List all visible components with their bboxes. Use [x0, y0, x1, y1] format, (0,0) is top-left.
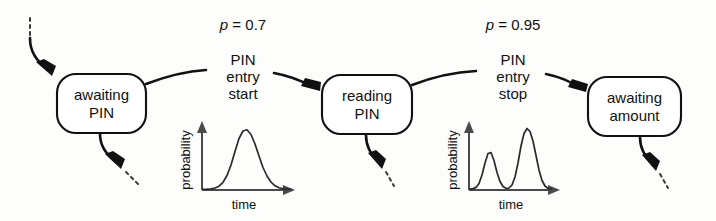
transition-event-label-2-line3: stop [499, 85, 527, 102]
inset-chart-timing-distribution-bimodal: probability time [445, 121, 560, 212]
state-label-awaiting-pin-line1: awaiting [74, 86, 129, 103]
state-label-awaiting-pin-line2: PIN [89, 104, 114, 121]
state-node-awaiting-amount[interactable]: awaiting amount [588, 77, 681, 136]
entry-into-awaiting-pin-arrow [30, 18, 56, 76]
state-label-awaiting-amount-line2: amount [609, 107, 660, 124]
transition-pin-entry-stop: p = 0.95 PIN entry stop [412, 16, 588, 102]
diagram-canvas: awaiting PIN p = 0.7 PIN entry start rea… [0, 0, 716, 221]
inset-chart-timing-distribution-unimodal: probability time [178, 121, 295, 212]
state-label-awaiting-amount-line1: awaiting [607, 89, 662, 106]
transition-event-label-1-line2: entry [226, 68, 260, 85]
transition-pin-entry-start: p = 0.7 PIN entry start [146, 16, 321, 102]
state-machine-figure: awaiting PIN p = 0.7 PIN entry start rea… [0, 0, 716, 221]
chart-2-y-axis-label: probability [445, 130, 460, 190]
chart-1-x-axis-label: time [232, 197, 257, 212]
transition-event-label-2-line1: PIN [500, 51, 525, 68]
exit-from-awaiting-amount-arrow [640, 137, 668, 188]
transition-probability-value-2: 0.95 [511, 16, 540, 33]
transition-probability-value-1: 0.7 [245, 16, 266, 33]
transition-event-label-1-line1: PIN [230, 51, 255, 68]
exit-from-awaiting-pin-arrow [100, 134, 140, 186]
exit-from-reading-pin-arrow [366, 135, 394, 186]
state-label-reading-pin-line1: reading [342, 87, 392, 104]
chart-1-y-axis-label: probability [178, 130, 193, 190]
state-node-reading-pin[interactable]: reading PIN [322, 75, 412, 134]
transition-event-label-1-line3: start [228, 85, 258, 102]
chart-2-x-axis-label: time [499, 197, 524, 212]
transition-event-label-2-line2: entry [496, 68, 530, 85]
transition-probability-label-1: p = 0.7 [219, 16, 266, 33]
state-label-reading-pin-line2: PIN [354, 105, 379, 122]
state-node-awaiting-pin[interactable]: awaiting PIN [57, 74, 146, 133]
transition-probability-label-2: p = 0.95 [485, 16, 541, 33]
